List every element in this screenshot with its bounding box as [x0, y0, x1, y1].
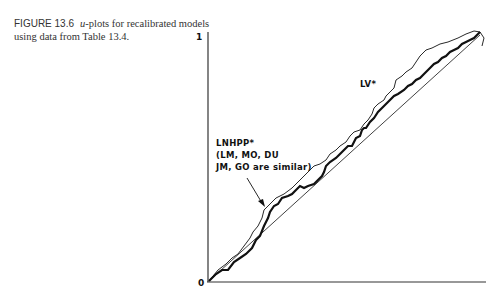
lnhpp-similar-models-line2: JM, GO are similar) — [215, 162, 312, 172]
annotation-arrow-shaft — [247, 178, 262, 203]
y-tick-1: 1 — [196, 32, 202, 42]
origin-tick-0: 0 — [198, 278, 204, 288]
lv-label: LV* — [360, 79, 376, 89]
u-plot-chart: 1 0 LV* LNHPP* (LM, MO, DU JM, GO are si… — [0, 0, 500, 297]
lnhpp-similar-models-line1: (LM, MO, DU — [216, 150, 279, 160]
annotation-arrow-icon — [258, 199, 265, 207]
lnhpp-label: LNHPP* — [216, 138, 255, 148]
